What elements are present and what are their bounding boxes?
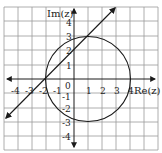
x-tick-labels: -4 -3 -2 -1 1 2 3 4 [11,86,134,96]
x-tick-label: -1 [53,86,62,96]
x-tick-label: 4 [128,86,134,96]
line-curve [6,8,115,118]
y-tick-label: 2 [66,46,72,56]
y-tick-label: 4 [66,18,72,28]
x-tick-label: -4 [11,86,20,96]
complex-plane-figure: Im(z) Re(z) 0 -4 -3 -2 -1 1 2 3 4 4 3 2 … [0,0,162,153]
y-tick-label: -4 [62,132,71,142]
y-tick-labels: 4 3 2 1 -1 -2 -3 -4 [62,18,72,142]
complex-plane-svg: Im(z) Re(z) 0 -4 -3 -2 -1 1 2 3 4 4 3 2 … [0,0,162,153]
y-tick-label: 1 [66,61,72,71]
x-axis-label: Re(z) [134,85,161,96]
axes [7,9,155,147]
x-tick-label: 3 [114,86,120,96]
y-tick-label: -2 [62,104,71,114]
y-tick-label: 3 [66,32,72,42]
y-tick-label: -1 [62,92,71,102]
x-tick-label: -3 [25,86,34,96]
y-tick-label: -3 [62,118,71,128]
origin-label: 0 [65,81,71,91]
x-tick-label: 2 [100,86,106,96]
x-tick-label: 1 [86,86,92,96]
x-tick-label: -2 [39,86,48,96]
